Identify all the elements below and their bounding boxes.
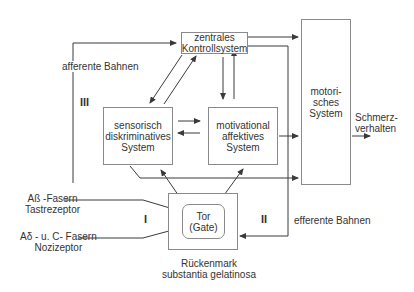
adelta-c-fasern-label: Aδ - u. C- Fasern Nozizeptor [20,231,97,253]
sensorisch-diskriminatives-box: sensorisch diskriminatives System [103,107,173,165]
pathway-III-label: III [80,96,89,108]
abeta-fasern-label: Aß -Fasern Tastrezeptor [25,193,80,215]
tor-gate-box: Tor (Gate) [182,204,225,239]
motorisches-system-box: motori- sches System [301,19,351,185]
zentrales-kontrollsystem-box: zentrales Kontrollsystem [181,32,248,54]
motivational-affektives-box: motivational affektives System [208,107,278,165]
rueckenmark-label: Rückenmark substantia gelatinosa [162,258,256,280]
afferente-bahnen-label: afferente Bahnen [62,61,139,72]
pathway-II-label: II [261,213,267,225]
schmerzverhalten-label: Schmerz- verhalten [355,112,398,134]
efferente-bahnen-label: efferente Bahnen [294,215,371,226]
pathway-I-label: I [144,213,147,225]
